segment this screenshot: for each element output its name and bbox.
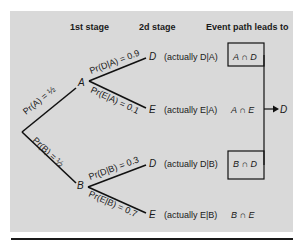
- node-B-E: E: [149, 209, 156, 220]
- label-pr-E-given-A: Pr(E|A) = 0.1: [89, 85, 140, 116]
- outcome-B-and-D: B ∩ D: [233, 159, 257, 169]
- actually-E-given-B: (actually E|B): [164, 210, 217, 220]
- arrow-right-icon: [273, 106, 279, 113]
- probability-tree: 1st stage 2d stage Event path leads to P…: [0, 0, 304, 247]
- node-B-D: D: [149, 158, 156, 169]
- header-stage2: 2d stage: [139, 22, 176, 32]
- node-A-E: E: [149, 104, 156, 115]
- node-A: A: [77, 77, 85, 88]
- actually-E-given-A: (actually E|A): [164, 105, 217, 115]
- label-pr-B: Pr(B) = ½: [31, 135, 67, 169]
- header-event-path: Event path leads to: [206, 22, 289, 32]
- label-pr-E-given-B: Pr(E|B) = 0.7: [87, 189, 139, 219]
- actually-D-given-A: (actually D|A): [164, 52, 218, 62]
- outcome-A-and-E: A ∩ E: [230, 105, 255, 115]
- outcome-A-and-D: A ∩ D: [232, 52, 257, 62]
- label-pr-A: Pr(A) = ½: [21, 84, 58, 116]
- arrow-target-D: D: [280, 104, 287, 115]
- actually-D-given-B: (actually D|B): [164, 159, 218, 169]
- node-B: B: [77, 180, 84, 191]
- outcome-B-and-E: B ∩ E: [231, 210, 255, 220]
- label-pr-D-given-A: Pr(D|A) = 0.9: [88, 48, 141, 76]
- node-A-D: D: [149, 51, 156, 62]
- header-stage1: 1st stage: [70, 22, 109, 32]
